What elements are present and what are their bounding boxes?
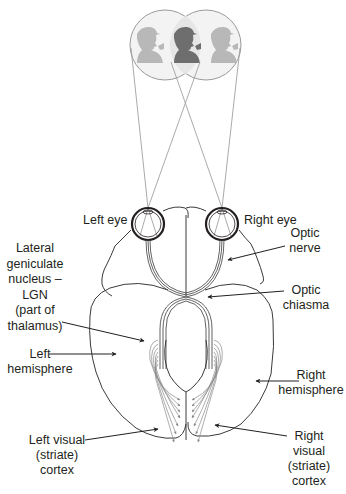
optic-pathways [146, 240, 224, 369]
label-left-visual-cortex: Left visual (striate) cortex [24, 433, 90, 478]
label-right-visual-cortex: Right visual (striate) cortex [284, 429, 334, 489]
label-optic-nerve: Optic nerve [280, 226, 330, 256]
label-left-hemisphere: Left hemisphere [6, 347, 74, 377]
lgn-leader [62, 322, 144, 341]
right-eye [206, 208, 238, 240]
right-cortex-leader [215, 425, 287, 436]
label-right-hemisphere: Right hemisphere [276, 368, 346, 398]
label-left-eye: Left eye [83, 213, 127, 228]
label-lgn: Lateral geniculate nucleus – LGN (part o… [4, 241, 66, 334]
left-cortex-leader [85, 429, 158, 440]
label-optic-chiasma: Optic chiasma [278, 283, 334, 313]
optic-chiasma-leader [208, 291, 284, 297]
visual-field [130, 10, 241, 80]
left-eye [132, 208, 164, 240]
leader-lines [49, 246, 299, 440]
brain-outline [90, 207, 274, 440]
